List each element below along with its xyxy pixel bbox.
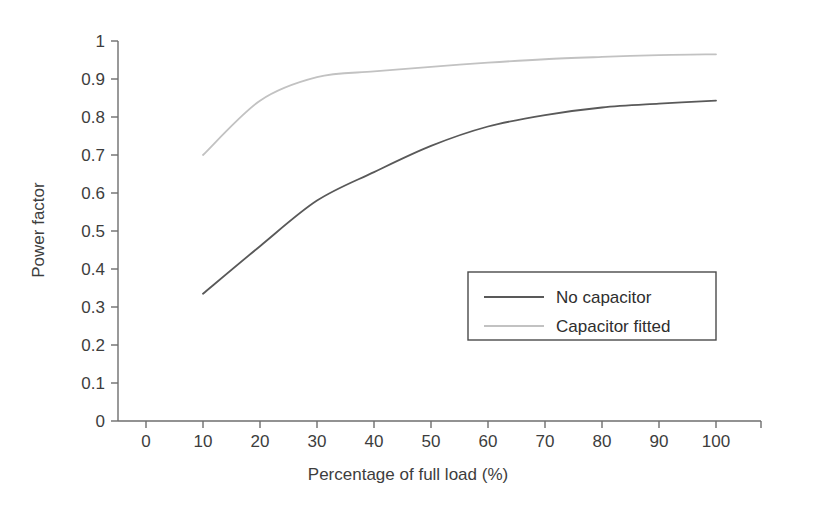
- y-tick-label: 0.5: [81, 222, 105, 241]
- y-tick-group: [111, 41, 118, 421]
- y-tick-label: 1: [96, 32, 105, 51]
- x-tick-label: 0: [141, 432, 150, 451]
- x-tick-group: [146, 421, 761, 428]
- y-tick-label: 0.8: [81, 108, 105, 127]
- x-tick-label: 60: [479, 432, 498, 451]
- x-tick-label: 70: [536, 432, 555, 451]
- chart-canvas: 00.10.20.30.40.50.60.70.80.91 0102030405…: [0, 0, 816, 508]
- x-tick-label: 40: [365, 432, 384, 451]
- x-tick-label: 10: [194, 432, 213, 451]
- legend-label-1: Capacitor fitted: [556, 317, 670, 336]
- y-tick-label-group: 00.10.20.30.40.50.60.70.80.91: [81, 32, 105, 431]
- power-factor-chart: 00.10.20.30.40.50.60.70.80.91 0102030405…: [0, 0, 816, 508]
- x-axis-title: Percentage of full load (%): [308, 465, 508, 484]
- y-tick-label: 0.4: [81, 260, 105, 279]
- y-tick-label: 0.1: [81, 374, 105, 393]
- y-axis: 00.10.20.30.40.50.60.70.80.91: [81, 32, 118, 431]
- x-tick-label-group: 0102030405060708090100: [141, 432, 730, 451]
- series-line-no-capacitor: [203, 101, 716, 294]
- x-axis: 0102030405060708090100: [118, 421, 761, 451]
- x-tick-label: 30: [308, 432, 327, 451]
- y-tick-label: 0.2: [81, 336, 105, 355]
- x-tick-label: 100: [702, 432, 730, 451]
- y-tick-label: 0.6: [81, 184, 105, 203]
- chart-legend: No capacitorCapacitor fitted: [468, 272, 716, 340]
- x-tick-label: 90: [650, 432, 669, 451]
- y-tick-label: 0: [96, 412, 105, 431]
- series-group: [203, 54, 716, 293]
- y-tick-label: 0.7: [81, 146, 105, 165]
- y-axis-title: Power factor: [29, 182, 48, 278]
- x-tick-label: 80: [593, 432, 612, 451]
- x-tick-label: 50: [422, 432, 441, 451]
- y-tick-label: 0.9: [81, 70, 105, 89]
- x-tick-label: 20: [251, 432, 270, 451]
- legend-label-0: No capacitor: [556, 288, 652, 307]
- y-tick-label: 0.3: [81, 298, 105, 317]
